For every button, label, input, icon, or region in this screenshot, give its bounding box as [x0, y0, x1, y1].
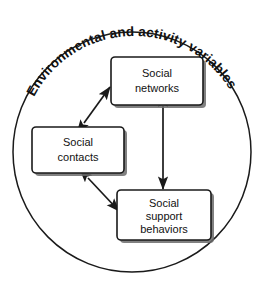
- node-social-support-behaviors-line3: behaviors: [140, 223, 188, 235]
- node-social-support-behaviors[interactable]: Social support behaviors: [117, 190, 214, 243]
- node-social-support-behaviors-line2: support: [146, 210, 183, 222]
- edge-contacts-support: [88, 178, 119, 211]
- node-social-networks[interactable]: Social networks: [111, 57, 206, 108]
- node-social-contacts-line1: Social: [63, 136, 93, 148]
- edge-contacts-networks: [84, 87, 110, 123]
- node-social-support-behaviors-line1: Social: [149, 197, 179, 209]
- node-social-contacts[interactable]: Social contacts: [32, 127, 127, 176]
- diagram-canvas: Environmental and activity variables Soc…: [0, 0, 268, 284]
- node-social-networks-line2: networks: [135, 82, 180, 94]
- node-social-networks-line1: Social: [142, 67, 172, 79]
- node-social-contacts-line2: contacts: [58, 151, 99, 163]
- diagram-svg: Environmental and activity variables Soc…: [0, 0, 268, 284]
